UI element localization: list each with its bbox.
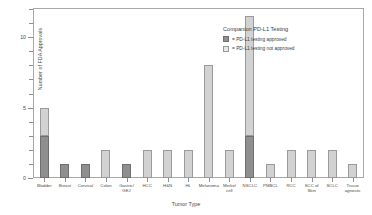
bar xyxy=(81,9,90,178)
bar-segment-not_approved xyxy=(101,150,110,178)
x-axis-tick xyxy=(106,178,107,182)
chart-figure: Number of FDA Approvals 0510 BladderBrea… xyxy=(0,0,372,215)
bar xyxy=(101,9,110,178)
bar-segment-not_approved xyxy=(328,150,337,178)
x-axis-tick xyxy=(229,178,230,182)
x-axis-tick-label-line: agnostic xyxy=(336,188,370,193)
y-axis-tick-label: 0 xyxy=(12,175,26,181)
x-axis-tick xyxy=(353,178,354,182)
bar-segment-not_approved xyxy=(204,65,213,178)
x-axis-tick xyxy=(312,178,313,182)
bar-segment-not_approved xyxy=(348,164,357,178)
bar xyxy=(122,9,131,178)
bar-segment-not_approved xyxy=(266,164,275,178)
bar-segment-approved xyxy=(40,136,49,178)
y-axis-tick-minor xyxy=(29,164,33,165)
y-axis-tick-minor xyxy=(29,150,33,151)
y-axis-tick-minor xyxy=(29,51,33,52)
bar-segment-not_approved xyxy=(40,108,49,136)
x-axis-tick xyxy=(270,178,271,182)
legend-swatch-approved xyxy=(223,36,229,42)
x-axis-tick xyxy=(44,178,45,182)
legend-item: = PD-L1 testing not approved xyxy=(223,46,355,52)
x-axis-tick-label-line: cell xyxy=(212,188,246,193)
y-axis-tick-minor xyxy=(29,65,33,66)
x-axis-tick-label: Tissueagnostic xyxy=(336,183,370,193)
x-axis-tick xyxy=(188,178,189,182)
x-axis-tick xyxy=(85,178,86,182)
bar xyxy=(60,9,69,178)
y-axis-tick-minor xyxy=(29,94,33,95)
bar-segment-approved xyxy=(60,164,69,178)
bar-segment-not_approved xyxy=(184,150,193,178)
bar xyxy=(184,9,193,178)
x-axis-tick xyxy=(127,178,128,182)
legend-title: Companion PD-L1 Testing xyxy=(223,26,355,32)
bar-segment-approved xyxy=(122,164,131,178)
bar-segment-not_approved xyxy=(287,150,296,178)
legend-label: = PD-L1 testing not approved xyxy=(232,46,295,51)
x-axis-tick-label-line: GEJ xyxy=(110,188,144,193)
x-axis-tick xyxy=(291,178,292,182)
legend-swatch-notapproved xyxy=(223,46,229,52)
x-axis-tick xyxy=(168,178,169,182)
y-axis-tick-label: 10 xyxy=(12,34,26,40)
legend-item: = PD-L1 testing approved xyxy=(223,36,355,42)
x-axis-title: Tumor Type xyxy=(0,201,372,207)
bar-segment-not_approved xyxy=(163,150,172,178)
y-axis-tick-minor xyxy=(29,136,33,137)
legend-label: = PD-L1 testing approved xyxy=(232,37,287,42)
y-axis-tick-minor xyxy=(29,122,33,123)
bar-segment-approved xyxy=(245,136,254,178)
bar xyxy=(40,9,49,178)
bar-segment-not_approved xyxy=(307,150,316,178)
bar-segment-not_approved xyxy=(225,150,234,178)
y-axis-tick-minor xyxy=(29,79,33,80)
bar-segment-not_approved xyxy=(143,150,152,178)
y-axis-tick-minor xyxy=(29,9,33,10)
y-axis-tick-major xyxy=(28,37,33,38)
y-axis-tick-major xyxy=(28,178,33,179)
bar xyxy=(204,9,213,178)
y-axis-tick-minor xyxy=(29,23,33,24)
x-axis-tick xyxy=(250,178,251,182)
y-axis-tick-label: 5 xyxy=(12,105,26,111)
legend: Companion PD-L1 Testing = PD-L1 testing … xyxy=(223,26,355,55)
x-axis-tick xyxy=(332,178,333,182)
x-axis-tick xyxy=(147,178,148,182)
x-axis-tick-label-line: Skin xyxy=(295,188,329,193)
x-axis-tick xyxy=(65,178,66,182)
bar-segment-approved xyxy=(81,164,90,178)
legend-entries: = PD-L1 testing approved= PD-L1 testing … xyxy=(223,36,355,52)
bar xyxy=(143,9,152,178)
x-axis-tick xyxy=(209,178,210,182)
y-axis-tick-major xyxy=(28,108,33,109)
bar xyxy=(163,9,172,178)
